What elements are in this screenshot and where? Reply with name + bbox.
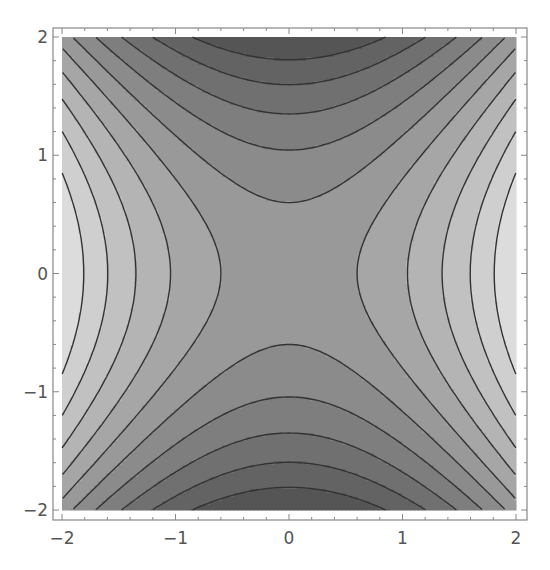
x-tick-label: 2: [511, 528, 522, 548]
contour-bands: [62, 37, 517, 511]
x-tick-label: 1: [397, 528, 408, 548]
x-tick-label: −2: [49, 528, 74, 548]
y-tick-label: 2: [37, 27, 48, 47]
y-tick-label: 1: [37, 145, 48, 165]
y-tick-label: −2: [23, 500, 48, 520]
x-tick-label: 0: [284, 528, 295, 548]
y-axis-tick-labels: −2−1012: [23, 27, 48, 520]
y-tick-label: −1: [23, 382, 48, 402]
y-tick-label: 0: [37, 264, 48, 284]
contour-plot: −2−1012 −2−1012: [0, 0, 550, 570]
x-tick-label: −1: [163, 528, 188, 548]
x-axis-tick-labels: −2−1012: [49, 528, 521, 548]
